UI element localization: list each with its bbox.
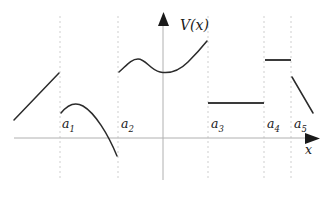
boundary-label-a2: a2	[121, 118, 134, 133]
boundary-label-a5-sub: 5	[301, 124, 306, 134]
boundary-label-a2-sub: 2	[128, 124, 133, 134]
branch-1-rising-line	[14, 73, 59, 120]
boundary-label-a1: a1	[62, 118, 75, 133]
boundary-dividers	[60, 16, 291, 180]
x-axis-label: x	[305, 144, 312, 157]
potential-function-figure: V(x) x a1 a2 a3 a4 a5	[0, 0, 331, 197]
boundary-label-a1-sub: 1	[69, 124, 74, 134]
y-axis-label: V(x)	[180, 18, 209, 32]
boundary-label-a4: a4	[267, 118, 280, 133]
boundary-label-a4-sub: 4	[274, 124, 279, 134]
y-axis-arrow-icon	[158, 12, 169, 26]
boundary-label-a3: a3	[211, 118, 224, 133]
boundary-label-a3-sub: 3	[218, 124, 223, 134]
branch-6-falling-line	[292, 77, 313, 113]
plot-canvas	[0, 0, 331, 197]
boundary-label-a5: a5	[294, 118, 307, 133]
